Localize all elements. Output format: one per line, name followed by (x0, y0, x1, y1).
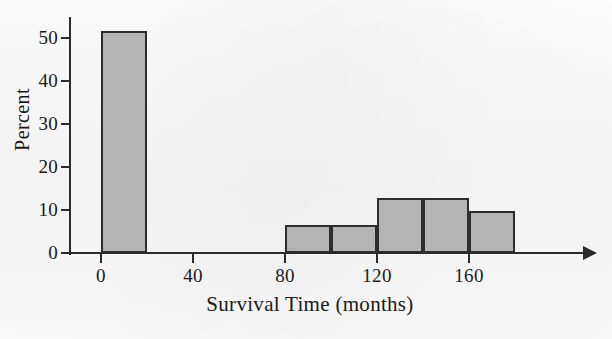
x-axis-line (69, 252, 585, 254)
y-axis-tick (61, 166, 70, 168)
x-axis-tick (284, 254, 286, 263)
x-axis-arrow-icon (583, 246, 597, 260)
histogram-bar (331, 225, 377, 253)
x-axis-tick-label: 160 (439, 266, 499, 286)
histogram-bar (377, 198, 423, 253)
histogram-bar (101, 31, 147, 253)
histogram-bar (469, 211, 515, 253)
x-axis-tick-label: 120 (347, 266, 407, 286)
x-axis-tick (192, 254, 194, 263)
y-axis-tick (61, 252, 70, 254)
plot-area: 01020304050 04080120160 Percent Survival… (0, 0, 612, 339)
x-axis-label: Survival Time (months) (160, 292, 460, 317)
x-axis-tick-label: 0 (71, 266, 131, 286)
x-axis-tick-label: 40 (163, 266, 223, 286)
x-axis-tick-label: 80 (255, 266, 315, 286)
y-axis-tick-label: 10 (16, 200, 58, 219)
histogram-bar (423, 198, 469, 253)
y-axis-tick (61, 80, 70, 82)
y-axis-label: Percent (11, 60, 34, 180)
x-axis-tick (376, 254, 378, 263)
x-axis-tick (100, 254, 102, 263)
histogram-bar (285, 225, 331, 253)
y-axis-tick-label: 50 (16, 28, 58, 47)
histogram-figure: 01020304050 04080120160 Percent Survival… (0, 0, 612, 339)
y-axis-tick (61, 123, 70, 125)
y-axis-tick (61, 209, 70, 211)
x-axis-tick (468, 254, 470, 263)
y-axis-tick-label: 0 (16, 243, 58, 262)
y-axis-line (69, 17, 71, 255)
y-axis-tick (61, 37, 70, 39)
